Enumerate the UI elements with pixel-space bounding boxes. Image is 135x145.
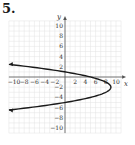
x-axis-label: x (124, 80, 128, 88)
x-tick-label: −10 (8, 78, 21, 85)
y-tick-label: 10 (55, 22, 63, 29)
y-tick-label: 8 (59, 32, 63, 39)
y-axis-arrow-icon (63, 16, 67, 20)
y-tick-label: 2 (59, 63, 63, 70)
x-tick-label: 2 (73, 78, 77, 85)
y-tick-label: 4 (59, 53, 63, 60)
x-axis-arrow-icon (122, 75, 126, 79)
y-tick-label: −8 (54, 114, 63, 121)
x-tick-label: 4 (83, 78, 87, 85)
y-tick-label: −2 (54, 83, 63, 90)
y-tick-label: −4 (54, 93, 63, 100)
x-tick-label: −8 (20, 78, 29, 85)
tick-labels: −10−8−6−4−2246810108642−2−4−6−8−10 (8, 22, 120, 131)
x-tick-label: −4 (40, 78, 49, 85)
x-tick-label: −6 (30, 78, 39, 85)
y-axis-label: y (56, 13, 62, 21)
x-tick-label: 10 (112, 78, 120, 85)
y-tick-label: 6 (59, 42, 63, 49)
coordinate-plane: xy −10−8−6−4−2246810108642−2−4−6−8−10 (0, 0, 135, 145)
y-tick-label: −10 (50, 124, 63, 131)
